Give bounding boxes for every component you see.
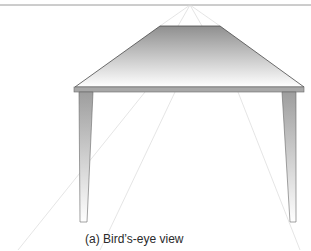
left-leg (79, 92, 93, 222)
tabletop (75, 26, 304, 87)
figure-caption: (a) Bird’s-eye view (85, 232, 183, 246)
right-leg (282, 92, 296, 222)
birds-eye-perspective-diagram (0, 0, 311, 251)
vanishing-point (189, 4, 191, 6)
table-edge (74, 87, 304, 92)
